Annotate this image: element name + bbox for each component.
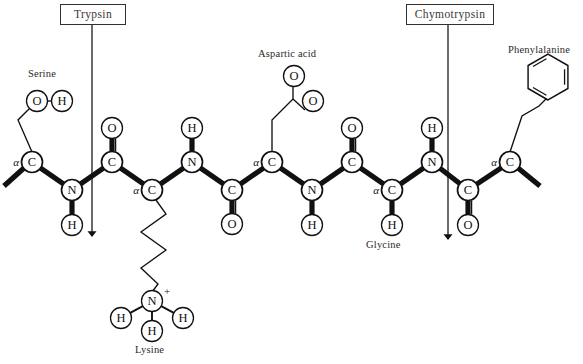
phenylalanine-label: Phenylalanine [508,44,570,55]
svg-text:H: H [387,218,396,232]
lysine-label: Lysine [135,344,164,355]
trypsin-label-text: Trypsin [74,8,112,20]
ammonium-bond [130,306,143,313]
c-terminus-bond [518,168,540,186]
svg-text:O: O [32,94,41,108]
svg-text:H: H [307,218,316,232]
svg-text:O: O [463,218,472,232]
svg-text:N: N [67,183,76,197]
serine-label: Serine [28,68,56,79]
svg-text:O: O [227,217,236,231]
svg-text:C: C [148,183,156,197]
aspartate-side-chain [272,86,293,152]
svg-text:C: C [464,183,472,197]
chymotrypsin-label-text: Chymotrypsin [415,8,486,20]
backbone-bond [201,168,224,184]
svg-text:H: H [67,218,76,232]
glycine-label: Glycine [366,239,401,250]
amide-hydrogen-3: H [302,215,323,236]
aspartic-acid-label: Aspartic acid [258,48,316,59]
chymotrypsin-label[interactable]: Chymotrypsin [406,4,494,25]
lysine-ammonium-nitrogen: N+ [142,285,171,312]
glycine-hydrogen: H [382,215,403,236]
backbone-bond [41,168,64,184]
backbone-bond [440,168,459,183]
svg-text:C: C [108,155,116,169]
alpha-carbon-marker: α [13,156,19,168]
backbone-bond [477,168,502,184]
benzene-inner-bond [533,87,546,95]
svg-text:H: H [187,121,196,135]
svg-text:O: O [107,121,116,135]
svg-text:H: H [427,121,436,135]
backbone-nitrogen-4: N [422,152,443,173]
alpha-carbon-marker: α [133,184,139,196]
backbone-bond [401,168,424,184]
backbone-bond [281,168,304,184]
aspartate-carbonyl-oxygen: O [284,66,305,87]
svg-text:C: C [228,183,236,197]
carbonyl-oxygen-2: O [222,214,243,235]
svg-text:C: C [28,155,36,169]
backbone-carbonyl-carbon-2: C [222,180,243,201]
diagram-canvas: CαNCCαNCCαNCCαNCCαHOHOHOHHOOHOON+HHH Try… [0,0,583,364]
alpha-carbon-marker: α [373,184,379,196]
phenylalanine-side-chain [510,99,546,152]
carbonyl-oxygen-4: O [458,215,479,236]
serine-alpha-carbon: Cα [13,152,42,173]
svg-text:O: O [289,69,298,83]
svg-text:O: O [308,94,317,108]
atom-layer: CαNCCαNCCαNCCαNCCαHOHOHOHHOOHOON+HHH [13,66,520,342]
svg-text:N: N [187,155,196,169]
svg-text:N: N [307,183,316,197]
lysine-ammonium-hydrogen-right: H [173,308,194,329]
alpha-carbon-marker: α [253,156,259,168]
benzene-ring [528,54,568,100]
svg-text:H: H [178,311,187,325]
svg-text:C: C [388,183,396,197]
backbone-bond [121,168,144,184]
svg-text:N: N [147,294,156,308]
aspartate-hydroxyl-oxygen: O [303,91,324,112]
positive-charge-marker: + [164,285,170,297]
backbone-bond [241,168,264,184]
backbone-bond [361,168,384,184]
backbone-nitrogen-2: N [182,152,203,173]
backbone-bond [161,168,184,184]
carbonyl-oxygen-3: O [342,118,363,139]
svg-text:H: H [147,324,156,338]
svg-text:O: O [347,121,356,135]
backbone-carbonyl-carbon-4: C [458,180,479,201]
lysine-side-chain [141,200,166,292]
svg-text:C: C [506,155,514,169]
backbone-carbonyl-carbon-1: C [102,152,123,173]
serine-side-chain [18,108,32,152]
svg-text:N: N [427,155,436,169]
svg-text:C: C [348,155,356,169]
backbone-nitrogen-1: N [62,180,83,201]
backbone-bond [321,168,344,184]
ammonium-bond [161,306,174,313]
serine-hydroxyl-hydrogen: H [52,91,73,112]
side-chain-layer [18,54,568,321]
lysine-ammonium-hydrogen-bottom: H [142,321,163,342]
carbonyl-oxygen-1: O [102,118,123,139]
amide-hydrogen-4: H [422,118,443,139]
amide-hydrogen-2: H [182,118,203,139]
svg-text:C: C [268,155,276,169]
backbone-nitrogen-3: N [302,180,323,201]
lysine-ammonium-hydrogen-left: H [111,308,132,329]
backbone-carbonyl-carbon-3: C [342,152,363,173]
svg-text:H: H [57,94,66,108]
trypsin-label[interactable]: Trypsin [60,4,126,25]
amide-hydrogen-1: H [62,215,83,236]
svg-text:H: H [116,311,125,325]
n-terminus-bond [4,168,24,186]
benzene-inner-bond [533,59,546,67]
alpha-carbon-marker: α [491,156,497,168]
serine-hydroxyl-oxygen: O [27,91,48,112]
